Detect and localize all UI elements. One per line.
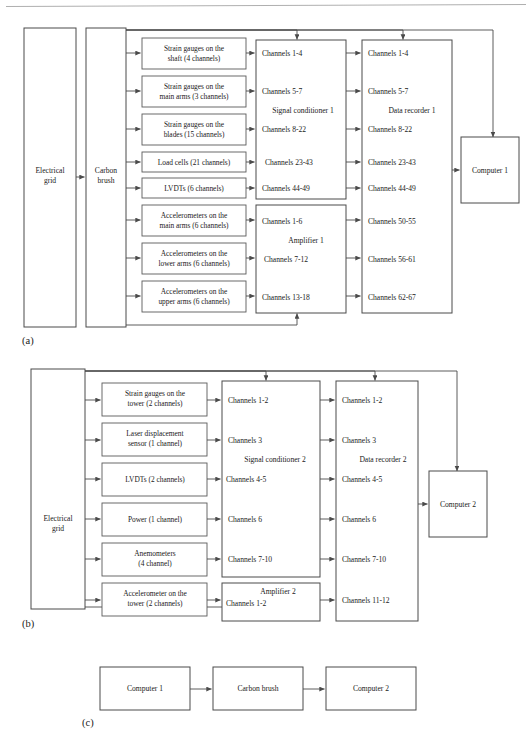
recorder-b-channel-6: Channels 11-12: [342, 596, 390, 605]
conditioner-a-channel-1: Channels 1-4: [262, 49, 302, 58]
sensor-a-3-line1: Strain gauges on the: [164, 120, 225, 129]
conditioner-b-channel-3: Channels 4-5: [226, 475, 266, 484]
electrical-grid-box-b: [31, 369, 85, 609]
recorder-b-channel-5: Channels 7-10: [342, 555, 386, 564]
recorder-a-channel-4: Channels 23-43: [368, 158, 416, 167]
page-header-rule: [6, 5, 526, 7]
sensor-a-8-line2: upper arms (6 channels): [158, 297, 230, 306]
sensor-a-4-line1: Load cells (21 channels): [158, 158, 231, 167]
electrical-grid-label-a-line1: Electrical: [35, 166, 64, 175]
recorder-a-channel-8: Channels 62-67: [368, 293, 416, 302]
panel-b-caption: (b): [22, 618, 35, 630]
sensor-a-8-line1: Accelerometers on the: [161, 287, 228, 296]
amplifier-b-channel-1: Channels 1-2: [226, 599, 266, 608]
panel-b: Electrical grid Strain gauges on the tow…: [22, 369, 487, 630]
sensor-b-6-line1: Accelerometer on the: [123, 589, 187, 598]
conditioner-a-channel-4: Channels 23-43: [265, 158, 313, 167]
sensor-b-5-line1: Anemometers: [134, 549, 176, 558]
sensor-a-1-line1: Strain gauges on the: [164, 44, 225, 53]
conditioner-b-channel-1: Channels 1-2: [228, 396, 268, 405]
sensor-a-1-line2: shaft (4 channels): [168, 54, 221, 63]
carbon-brush-label-a-line1: Carbon: [95, 166, 118, 175]
recorder-a-channel-2: Channels 5-7: [368, 87, 408, 96]
panel-a: Electrical grid Carbon brush Strain gaug…: [22, 28, 519, 347]
sensor-b-1-line1: Strain gauges on the: [125, 389, 186, 398]
recorder-b-channel-1: Channels 1-2: [342, 396, 382, 405]
sensor-a-6-line2: main arms (6 channels): [159, 221, 229, 230]
sensor-b-3-line1: LVDTs (2 channels): [125, 475, 185, 484]
sensor-a-7-line1: Accelerometers on the: [161, 249, 228, 258]
sensor-a-2-line1: Strain gauges on the: [164, 82, 225, 91]
panel-c-node-2-label: Carbon brush: [237, 684, 278, 693]
sensor-a-7-line2: lower arms (6 channels): [158, 259, 230, 268]
sensor-b-4-line1: Power (1 channel): [128, 515, 183, 524]
carbon-brush-label-a-line2: brush: [98, 176, 115, 185]
data-recorder-1-title: Data recorder 1: [388, 106, 435, 115]
conditioner-a-channel-5: Channels 44-49: [262, 184, 310, 193]
data-recorder-2-box: [336, 381, 418, 621]
recorder-b-channel-3: Channels 4-5: [342, 475, 382, 484]
power-rail-conditioner-b: [85, 371, 266, 381]
sensor-a-2-line2: main arms (3 channels): [159, 92, 229, 101]
panel-c-node-3-label: Computer 2: [353, 684, 389, 693]
computer-1-label: Computer 1: [472, 166, 508, 175]
conditioner-b-channel-4: Channels 6: [228, 515, 262, 524]
figure-root: Electrical grid Carbon brush Strain gaug…: [0, 0, 532, 732]
power-rail-amplifier-a: [126, 314, 297, 326]
sensor-b-6-line2: tower (2 channels): [128, 599, 184, 608]
recorder-a-channel-6: Channels 50-55: [368, 217, 416, 226]
recorder-b-channel-2: Channels 3: [342, 436, 376, 445]
panel-c-caption: (c): [82, 717, 94, 729]
sensor-b-2-line2: sensor (1 channel): [128, 439, 183, 448]
recorder-a-channel-7: Channels 56-61: [368, 255, 416, 264]
signal-conditioner-1-title: Signal conditioner 1: [272, 106, 334, 115]
panel-a-caption: (a): [22, 335, 34, 347]
amplifier-1-title: Amplifier 1: [288, 236, 324, 245]
electrical-grid-label-b-line1: Electrical: [43, 514, 72, 523]
sensor-a-5-line1: LVDTs (6 channels): [164, 184, 224, 193]
signal-conditioner-1-box: [256, 40, 346, 199]
sensor-a-3-line2: blades (15 channels): [164, 130, 225, 139]
block-diagram-svg: Electrical grid Carbon brush Strain gaug…: [0, 0, 532, 732]
amplifier-2-title: Amplifier 2: [260, 587, 296, 596]
sensor-a-6-line1: Accelerometers on the: [161, 211, 228, 220]
sensor-b-5-line2: (4 channel): [138, 559, 172, 568]
power-rail-recorder-b: [85, 371, 375, 381]
conditioner-b-channel-5: Channels 7-10: [228, 555, 272, 564]
sensor-b-1-line2: tower (2 channels): [128, 399, 184, 408]
electrical-grid-label-a-line2: grid: [44, 176, 56, 185]
data-recorder-2-title: Data recorder 2: [359, 455, 406, 464]
data-recorder-1-box: [362, 40, 452, 313]
computer-2-label: Computer 2: [440, 500, 476, 509]
amplifier-a-channel-2: Channels 7-12: [264, 255, 308, 264]
recorder-a-channel-5: Channels 44-49: [368, 184, 416, 193]
recorder-a-channel-3: Channels 8-22: [368, 125, 412, 134]
recorder-a-channel-1: Channels 1-4: [368, 49, 408, 58]
amplifier-a-channel-1: Channels 1-6: [262, 217, 302, 226]
panel-c-node-1-label: Computer 1: [127, 684, 163, 693]
electrical-grid-label-b-line2: grid: [52, 524, 64, 533]
signal-conditioner-2-title: Signal conditioner 2: [244, 455, 306, 464]
recorder-b-channel-4: Channels 6: [342, 515, 376, 524]
sensor-b-2-line1: Laser displacement: [126, 429, 184, 438]
conditioner-a-channel-3: Channels 8-22: [262, 125, 306, 134]
amplifier-a-channel-3: Channels 13-18: [262, 293, 310, 302]
conditioner-b-channel-2: Channels 3: [228, 436, 262, 445]
conditioner-a-channel-2: Channels 5-7: [262, 87, 302, 96]
panel-c: Computer 1 Carbon brush Computer 2 (c): [82, 667, 416, 729]
